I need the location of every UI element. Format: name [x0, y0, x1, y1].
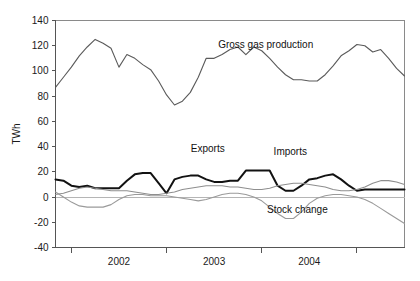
y-tick-label: 40	[37, 141, 49, 152]
y-tick-label: 0	[43, 192, 49, 203]
x-tick-label: 2003	[203, 256, 226, 267]
gross-gas-production-label: Gross gas production	[218, 39, 313, 50]
x-tick-label: 2004	[298, 256, 321, 267]
stock-change-label: Stock change	[267, 204, 328, 215]
imports-label: Imports	[274, 146, 307, 157]
y-tick-label: -40	[34, 242, 49, 253]
x-tick-label: 2002	[108, 256, 131, 267]
y-tick-label: 60	[37, 116, 49, 127]
y-tick-label: 80	[37, 91, 49, 102]
plot-frame	[56, 21, 405, 248]
series-lines	[56, 39, 405, 223]
line-chart: -40-20020406080100120140 200220032004 Gr…	[0, 0, 420, 281]
y-axis-title: TWh	[11, 123, 22, 144]
y-tick-label: -20	[34, 217, 49, 228]
y-tick-label: 20	[37, 166, 49, 177]
y-tick-label: 140	[32, 15, 49, 26]
y-tick-label: 120	[32, 40, 49, 51]
y-tick-label: 100	[32, 65, 49, 76]
exports-label: Exports	[191, 143, 225, 154]
x-axis-ticks: 200220032004	[71, 248, 357, 267]
y-axis-ticks: -40-20020406080100120140	[32, 15, 56, 253]
chart-container: -40-20020406080100120140 200220032004 Gr…	[0, 0, 420, 281]
